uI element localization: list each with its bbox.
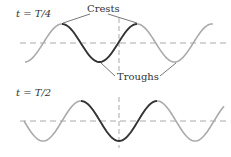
panel-t-half: t = T/2 [16,87,228,148]
time-label-half: t = T/2 [16,87,51,98]
crests-label: Crests [87,3,120,14]
time-label-quarter: t = T/4 [16,8,51,19]
trough-pointer-right [160,63,176,76]
panel-t-quarter: t = T/4 Crests Troughs [16,3,228,82]
crest-pointer-right [108,14,137,23]
crest-pointer-left [63,14,90,23]
standing-wave-diagram: t = T/4 Crests Troughs t = T/2 [0,0,231,157]
trough-pointer-left [101,63,115,76]
troughs-label: Troughs [117,71,159,82]
